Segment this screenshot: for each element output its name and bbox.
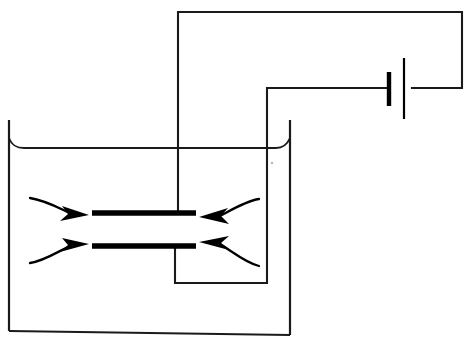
diagram-canvas: [0, 0, 470, 346]
canvas-background: [0, 0, 470, 346]
electrolysis-capacitor-diagram: [0, 0, 470, 346]
scan-speck: [271, 162, 274, 165]
